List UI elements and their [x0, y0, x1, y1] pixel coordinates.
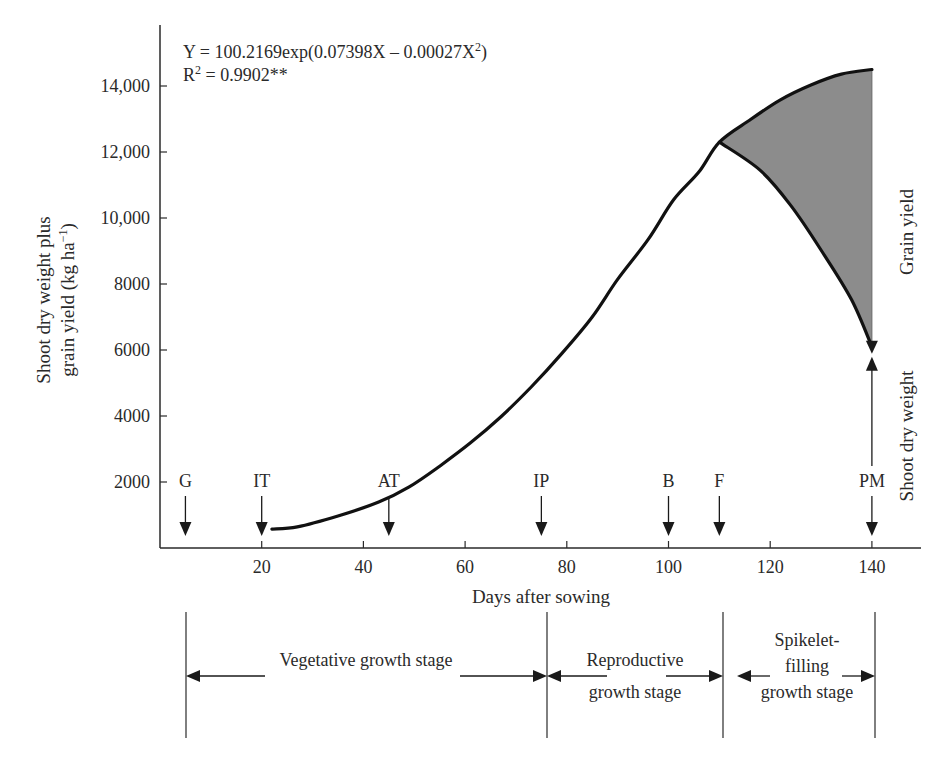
y-tick-label: 4000	[114, 406, 150, 426]
x-tick-label: 80	[558, 557, 576, 577]
arrow-down-icon	[866, 341, 878, 354]
arrow-right-icon	[861, 670, 875, 682]
arrow-left-icon	[186, 670, 200, 682]
stage-marker-f: F	[713, 471, 725, 536]
y-tick-label: 2000	[114, 472, 150, 492]
growth-stage-3: Spikelet-fillinggrowth stage	[737, 630, 875, 702]
arrow-up-icon	[866, 357, 878, 371]
x-tick-label: 120	[757, 557, 784, 577]
y-tick-label: 12,000	[101, 142, 151, 162]
x-tick-label: 20	[253, 557, 271, 577]
y-tick-label: 14,000	[101, 76, 151, 96]
y-tick-label: 10,000	[101, 208, 151, 228]
arrow-down-icon	[535, 522, 547, 536]
growth-stage-label: Spikelet-	[775, 630, 840, 650]
stage-marker-it: IT	[253, 471, 270, 536]
arrow-down-icon	[383, 522, 395, 536]
x-tick-label: 140	[858, 557, 885, 577]
shoot-dry-weight-label: Shoot dry weight	[896, 370, 917, 502]
arrow-left-icon	[737, 670, 751, 682]
stage-marker-g: G	[179, 471, 192, 536]
grain-yield-label: Grain yield	[896, 189, 917, 276]
arrow-left-icon	[547, 670, 561, 682]
growth-stage-diagram: Vegetative growth stageReproductivegrowt…	[186, 612, 875, 738]
growth-stage-label: Vegetative growth stage	[280, 650, 453, 670]
stage-marker-at: AT	[378, 471, 400, 536]
grain-yield-shaded-area	[719, 70, 872, 347]
stage-marker-b: B	[662, 471, 674, 536]
stage-marker-label: PM	[859, 471, 885, 491]
growth-stage-label: Reproductive	[587, 650, 684, 670]
y-tick-label: 6000	[114, 340, 150, 360]
regression-equation: Y = 100.2169exp(0.07398X – 0.00027X2)	[183, 40, 487, 63]
x-tick-label: 40	[354, 557, 372, 577]
svg-text:grain yield (kg ha−1): grain yield (kg ha−1)	[56, 223, 79, 377]
stage-marker-label: B	[662, 471, 674, 491]
growth-stage-label: growth stage	[761, 682, 853, 702]
x-tick-label: 60	[456, 557, 474, 577]
growth-chart: GITATIPBFPM 2040608010012014020004000600…	[0, 0, 951, 772]
growth-stage-2: Reproductivegrowth stage	[547, 650, 723, 702]
x-axis-title: Days after sowing	[472, 586, 611, 607]
arrow-down-icon	[866, 522, 878, 536]
grain-yield-fill	[719, 70, 872, 347]
arrow-down-icon	[713, 522, 725, 536]
r-squared: R2 = 0.9902**	[183, 63, 288, 85]
stage-marker-ip: IP	[533, 471, 549, 536]
growth-stage-label: growth stage	[589, 682, 681, 702]
growth-stage-1: Vegetative growth stage	[186, 650, 547, 682]
growth-stage-label: filling	[785, 656, 829, 676]
arrow-down-icon	[256, 522, 268, 536]
stage-marker-pm: PM	[859, 341, 885, 536]
stage-marker-label: IP	[533, 471, 549, 491]
x-tick-label: 100	[655, 557, 682, 577]
arrow-down-icon	[179, 522, 191, 536]
y-axis-title: Shoot dry weight plus grain yield (kg ha…	[33, 216, 79, 383]
stage-marker-label: F	[714, 471, 724, 491]
stage-marker-label: G	[179, 471, 192, 491]
y-tick-label: 8000	[114, 274, 150, 294]
arrow-right-icon	[709, 670, 723, 682]
stage-marker-label: AT	[378, 471, 400, 491]
svg-text:Shoot dry weight plus: Shoot dry weight plus	[33, 216, 54, 383]
arrow-right-icon	[533, 670, 547, 682]
stage-markers: GITATIPBFPM	[179, 341, 885, 536]
arrow-down-icon	[663, 522, 675, 536]
stage-marker-label: IT	[253, 471, 270, 491]
